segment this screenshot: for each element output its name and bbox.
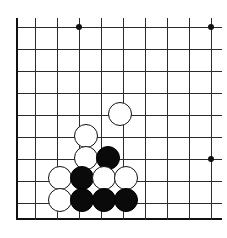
stone-white-6[interactable] xyxy=(114,166,138,190)
go-board[interactable] xyxy=(0,0,227,238)
star-point-top-right xyxy=(208,24,214,30)
stone-black-3[interactable] xyxy=(70,188,94,212)
stone-white-7[interactable] xyxy=(48,188,72,212)
grid-line-horizontal-2 xyxy=(16,71,222,72)
stone-black-4[interactable] xyxy=(92,188,116,212)
stone-white-1[interactable] xyxy=(108,102,132,126)
grid-line-horizontal-1 xyxy=(16,49,222,50)
grid-line-horizontal-3 xyxy=(16,93,222,94)
stone-black-5[interactable] xyxy=(114,188,138,212)
stone-black-2[interactable] xyxy=(70,166,94,190)
stone-white-5[interactable] xyxy=(92,166,116,190)
grid-line-vertical-7 xyxy=(167,18,168,220)
star-point-right xyxy=(208,156,214,162)
grid-line-horizontal-5 xyxy=(16,137,222,138)
board-bottom-edge xyxy=(16,218,222,220)
grid-line-vertical-8 xyxy=(189,18,190,220)
stone-white-2[interactable] xyxy=(74,124,98,148)
star-point-top-left xyxy=(76,24,82,30)
board-left-edge xyxy=(16,18,18,220)
grid-line-vertical-6 xyxy=(145,18,146,220)
stone-white-4[interactable] xyxy=(48,166,72,190)
grid-line-horizontal-0 xyxy=(16,27,222,28)
grid-line-vertical-9 xyxy=(211,18,212,220)
grid-line-vertical-1 xyxy=(35,18,36,220)
